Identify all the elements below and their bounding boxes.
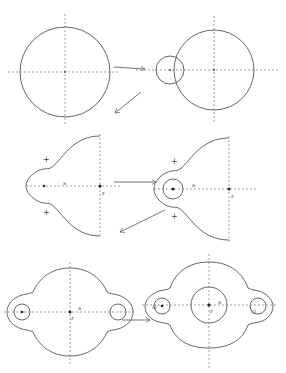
center-point bbox=[64, 71, 66, 73]
arrow-right-1 bbox=[114, 67, 145, 69]
right-point bbox=[228, 188, 231, 191]
plus-top: + bbox=[43, 155, 50, 164]
panel-two-circles bbox=[136, 16, 278, 124]
plus-bottom: + bbox=[171, 212, 178, 221]
arrow-down-left-1 bbox=[115, 92, 141, 113]
large-center bbox=[213, 69, 215, 71]
plus-bottom: + bbox=[43, 208, 50, 217]
below-label: z bbox=[210, 308, 213, 314]
panel-two-lobe-domain-with-holes: a z r1 r2 bbox=[142, 254, 278, 368]
below-label: z bbox=[71, 315, 74, 321]
center-label: a bbox=[78, 305, 81, 311]
right-point bbox=[99, 185, 102, 188]
center-point bbox=[208, 304, 211, 307]
center-label: a bbox=[63, 180, 66, 186]
right-label: r2 bbox=[251, 309, 256, 315]
small-center bbox=[169, 69, 171, 71]
right-label: z bbox=[102, 190, 105, 196]
left-center bbox=[161, 305, 164, 308]
center-point bbox=[69, 311, 72, 314]
hole-center bbox=[172, 188, 175, 191]
panel-cusp-domain: + + a z bbox=[26, 134, 122, 238]
arrow-down-left-2 bbox=[120, 210, 165, 232]
left-label: r1 bbox=[152, 304, 157, 310]
plus-top: + bbox=[171, 157, 178, 166]
center-label: a bbox=[192, 182, 195, 188]
left-point bbox=[43, 185, 46, 188]
center-label: a bbox=[218, 299, 221, 305]
diagram-canvas: + + a z + + a z a z bbox=[0, 0, 286, 373]
left-center bbox=[21, 311, 24, 314]
panel-cusp-domain-with-hole: + + a z bbox=[154, 136, 258, 242]
right-label: z bbox=[231, 193, 234, 199]
panel-unit-circle bbox=[8, 14, 120, 124]
panel-two-lobe-domain: a z bbox=[4, 262, 136, 364]
